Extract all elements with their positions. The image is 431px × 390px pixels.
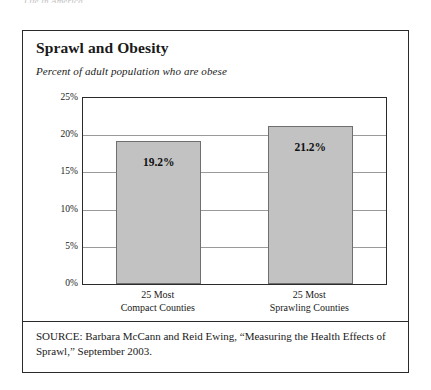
y-axis-tick-label: 0% (44, 278, 78, 288)
bar-value-label: 19.2% (117, 156, 200, 168)
y-axis-tick-label: 15% (44, 166, 78, 176)
y-axis-tick-label: 10% (44, 204, 78, 214)
source-divider (23, 321, 408, 322)
source-note: SOURCE: Barbara McCann and Reid Ewing, “… (36, 329, 391, 359)
x-axis-tick-label: 25 MostSprawling Counties (234, 289, 386, 314)
x-axis-tick-label-line: Compact Counties (82, 302, 234, 315)
x-axis-tick-label-line: 25 Most (234, 289, 386, 302)
bar: 19.2% (116, 141, 201, 284)
bar: 21.2% (268, 126, 353, 284)
x-axis-tick-label: 25 MostCompact Counties (82, 289, 234, 314)
y-axis-tick-label: 20% (44, 129, 78, 139)
x-axis-tick-label-line: Sprawling Counties (234, 302, 386, 315)
bar-value-label: 21.2% (269, 141, 352, 153)
x-axis-tick-label-line: 25 Most (82, 289, 234, 302)
figure-box: Sprawl and Obesity Percent of adult popu… (22, 30, 409, 373)
bar-chart: 0%5%10%15%20%25% 19.2%21.2% 25 MostCompa… (23, 31, 410, 374)
plot-frame: 19.2%21.2% (82, 97, 387, 285)
y-axis-tick-labels: 0%5%10%15%20%25% (42, 97, 78, 285)
y-axis-tick-label: 25% (44, 92, 78, 102)
y-axis-tick-label: 5% (44, 241, 78, 251)
page-top-text-fragment: Life in America (24, 0, 83, 3)
